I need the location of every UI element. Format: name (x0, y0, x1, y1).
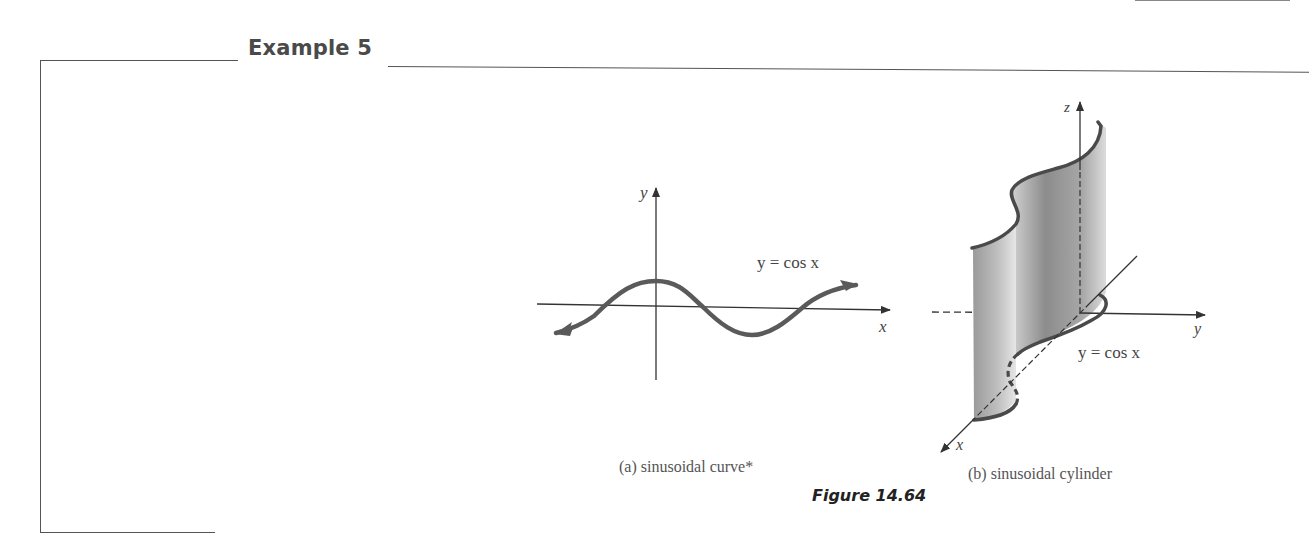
panel-b-x-label: x (955, 436, 963, 453)
panel-b-z-label: z (1063, 99, 1070, 115)
cylinder-surface-left (973, 225, 1016, 420)
figure-graphics: y x y = cos x z (0, 0, 1309, 534)
textbook-page: Example 5 (0, 0, 1309, 534)
panel-b-plot: z y x y = cos x (932, 99, 1205, 453)
caption-panel-a: (a) sinusoidal curve* (619, 458, 753, 476)
panel-a-x-label: x (878, 317, 887, 336)
panel-a-plot: y x y = cos x (537, 183, 890, 380)
figure-number: Figure 14.64 (812, 486, 926, 505)
panel-a-x-axis (537, 304, 890, 310)
panel-a-y-label: y (638, 183, 648, 202)
caption-panel-b: (b) sinusoidal cylinder (968, 465, 1112, 483)
panel-b-equation: y = cos x (1078, 343, 1140, 362)
panel-b-y-label: y (1192, 320, 1202, 338)
cosine-curve (556, 281, 856, 335)
panel-a-equation: y = cos x (757, 253, 819, 272)
